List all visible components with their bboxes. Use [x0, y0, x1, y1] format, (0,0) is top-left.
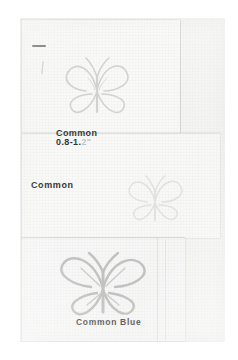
paper-edge-vertical-top — [180, 21, 181, 133]
scan-margin-right — [225, 0, 238, 360]
paper-edge-vertical-bottom-2 — [165, 240, 166, 340]
specimen-label-bottom: Common Blue — [76, 317, 141, 327]
paper-edge-horizontal-lower — [22, 237, 185, 238]
scanned-page: Common 0.8-1.2" Common Common Blue — [0, 0, 238, 360]
ink-dash-mark — [32, 45, 46, 47]
scan-margin-bottom — [0, 342, 238, 360]
butterfly-sketch-middle — [118, 168, 192, 234]
butterfly-sketch-bottom — [47, 250, 159, 322]
butterfly-sketch-top — [54, 50, 140, 130]
measurement-faded-suffix: 2" — [81, 137, 91, 147]
scan-margin-left — [0, 0, 20, 360]
specimen-measurement-top: 0.8-1.2" — [56, 137, 92, 147]
specimen-label-middle: Common — [31, 180, 74, 190]
paper-edge-horizontal-upper — [22, 133, 220, 134]
measurement-value: 0.8-1. — [56, 137, 81, 147]
paper-edge-horizontal-bottom — [22, 341, 185, 342]
scan-margin-top — [0, 0, 238, 18]
